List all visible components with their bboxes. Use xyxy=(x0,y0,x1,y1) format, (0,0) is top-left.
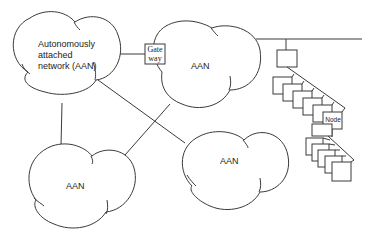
node-chain-upper xyxy=(273,67,345,137)
aan-main-label-line-1: Autonomously xyxy=(38,39,118,50)
node-chain-lower xyxy=(306,124,354,181)
link-topright-to-bottomleft xyxy=(125,104,170,155)
gateway-label-line-1: Gate xyxy=(145,45,165,54)
aan-bottom-left-label: AAN xyxy=(66,181,85,192)
aan-main-label-line-3: network (AAN) xyxy=(38,61,118,72)
aan-main-label-line-2: attached xyxy=(38,50,118,61)
gateway-label-line-2: way xyxy=(145,54,165,63)
aan-top-right-label: AAN xyxy=(191,61,210,72)
aan-bottom-right-label: AAN xyxy=(220,156,239,167)
cloud-aan-bottom-right xyxy=(182,132,288,210)
gateway-label: Gate way xyxy=(145,45,165,63)
node-label: Node xyxy=(324,116,342,124)
aan-main-label: Autonomously attached network (AAN) xyxy=(38,39,118,72)
network-diagram xyxy=(0,0,374,248)
link-main-to-bottomleft xyxy=(61,103,62,146)
node-top-box xyxy=(277,50,297,67)
